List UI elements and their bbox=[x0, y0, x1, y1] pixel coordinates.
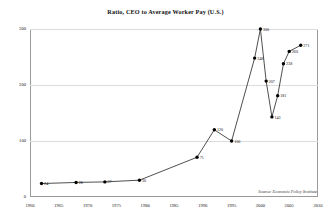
x-axis-tick-label: 2010 bbox=[305, 203, 331, 208]
x-axis-tick-label: 1960 bbox=[17, 203, 43, 208]
data-point-label: 143 bbox=[275, 115, 281, 120]
data-point-label: 26 bbox=[79, 180, 83, 185]
data-point-marker bbox=[74, 181, 77, 184]
data-point-label: 248 bbox=[257, 56, 263, 61]
data-point-marker bbox=[264, 79, 267, 82]
x-axis-tick-label: 2000 bbox=[247, 203, 273, 208]
data-point-marker bbox=[282, 62, 285, 65]
x-axis-tick-label: 1980 bbox=[132, 203, 158, 208]
x-axis-tick-label: 1970 bbox=[75, 203, 101, 208]
data-series-layer bbox=[30, 29, 318, 197]
data-point-marker bbox=[276, 94, 279, 97]
data-point-marker bbox=[40, 182, 43, 185]
y-axis-tick-label: 100 bbox=[4, 138, 26, 143]
chart-title: Ratio, CEO to Average Worker Pay (U.S.) bbox=[0, 8, 331, 15]
data-point-marker bbox=[213, 128, 216, 131]
data-point-label: 207 bbox=[269, 79, 275, 84]
y-axis-tick-label: 0 bbox=[4, 194, 26, 199]
x-axis-tick-label: 1965 bbox=[46, 203, 72, 208]
data-point-label: 238 bbox=[286, 61, 292, 66]
data-point-label: 300 bbox=[263, 27, 269, 32]
data-point-marker bbox=[195, 156, 198, 159]
x-axis-tick-label: 1990 bbox=[190, 203, 216, 208]
data-point-marker bbox=[103, 180, 106, 183]
data-point-marker bbox=[253, 56, 256, 59]
data-point-label: 271 bbox=[303, 43, 309, 48]
source-annotation: Source: Economic Policy Institute bbox=[258, 189, 317, 194]
data-point-marker bbox=[288, 50, 291, 53]
series-line bbox=[42, 29, 301, 184]
data-point-label: 181 bbox=[280, 93, 286, 98]
data-point-marker bbox=[230, 139, 233, 142]
y-axis-tick-label: 200 bbox=[4, 82, 26, 87]
data-point-label: 260 bbox=[292, 49, 298, 54]
data-point-marker bbox=[259, 27, 262, 30]
data-point-marker bbox=[299, 44, 302, 47]
data-point-label: 120 bbox=[217, 127, 223, 132]
data-point-label: 30 bbox=[142, 178, 146, 183]
data-point-label: 24 bbox=[44, 181, 48, 186]
x-axis-tick-label: 1975 bbox=[103, 203, 129, 208]
x-axis-tick-label: 1985 bbox=[161, 203, 187, 208]
data-point-label: 27 bbox=[107, 179, 111, 184]
x-axis-tick-label: 2005 bbox=[276, 203, 302, 208]
data-point-marker bbox=[270, 115, 273, 118]
y-axis-tick-label: 300 bbox=[4, 26, 26, 31]
data-point-label: 71 bbox=[200, 155, 204, 160]
data-point-label: 100 bbox=[234, 139, 240, 144]
chart-container: Ratio, CEO to Average Worker Pay (U.S.) … bbox=[0, 0, 331, 224]
data-point-marker bbox=[138, 179, 141, 182]
x-axis-tick-label: 1995 bbox=[219, 203, 245, 208]
